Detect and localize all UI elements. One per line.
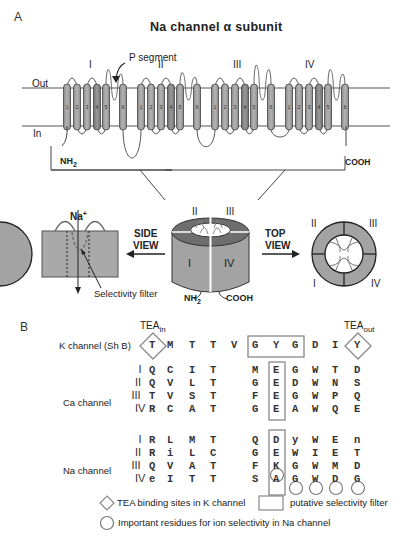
domain-label-i: I bbox=[89, 59, 92, 70]
ca-residue: T bbox=[149, 390, 155, 402]
na-residue: G bbox=[252, 447, 258, 459]
na-residue: T bbox=[210, 460, 216, 472]
channel-barrel bbox=[172, 217, 249, 299]
barrel-nh2-label: NH2 bbox=[184, 293, 201, 305]
k-residue: G bbox=[252, 339, 258, 351]
na-residue: E bbox=[273, 447, 279, 459]
side-view-block bbox=[42, 231, 118, 277]
k-residue: Y bbox=[273, 339, 279, 351]
ca-residue: Q bbox=[332, 403, 338, 415]
na-residue: W bbox=[312, 434, 318, 446]
cooh-label: COOH bbox=[345, 157, 371, 167]
k-residue: D bbox=[312, 339, 318, 351]
ca-residue: G bbox=[252, 377, 258, 389]
ca-residue: C bbox=[167, 364, 173, 376]
ca-channel-name: Ca channel bbox=[63, 397, 111, 408]
legend-circle-label: Important residues for ion selectivity i… bbox=[118, 517, 330, 528]
ca-residue: S bbox=[189, 390, 195, 402]
inter-domain-linker bbox=[123, 128, 141, 158]
ca-residue: P bbox=[332, 390, 338, 402]
na-residue: i bbox=[167, 447, 173, 459]
k-residue: T bbox=[149, 339, 155, 351]
ca-domain-numeral: III bbox=[132, 389, 141, 401]
k-residue: T bbox=[210, 339, 216, 351]
na-residue: G bbox=[354, 473, 360, 485]
ca-domain-numeral: IV bbox=[135, 402, 145, 414]
na-residue: D bbox=[273, 434, 279, 446]
na-ion-label: Na+ bbox=[70, 210, 87, 222]
na-residue: K bbox=[273, 460, 279, 472]
na-residue: F bbox=[252, 460, 258, 472]
na-residue: W bbox=[312, 473, 318, 485]
na-residue: V bbox=[167, 460, 173, 472]
na-residue: R bbox=[149, 434, 155, 446]
legend-circle-icon bbox=[101, 517, 114, 530]
top-view-domain-ii: II bbox=[311, 218, 317, 229]
bracket-connector-right bbox=[258, 170, 285, 200]
ca-residue: E bbox=[273, 390, 279, 402]
na-domain-numeral: I bbox=[139, 433, 142, 445]
side-view-loop-right bbox=[85, 222, 105, 232]
na-residue: T bbox=[189, 473, 195, 485]
na-residue: D bbox=[332, 473, 338, 485]
top-view-label-line1: TOP bbox=[265, 228, 285, 239]
side-view-label-line1: SIDE bbox=[134, 228, 157, 239]
legend-diamond-icon bbox=[100, 496, 114, 510]
ion-flow-arrowhead-icon bbox=[75, 287, 81, 294]
ca-domain-numeral: I bbox=[139, 363, 142, 375]
barrel-domain-iv: IV bbox=[224, 257, 234, 269]
ca-residue: V bbox=[167, 377, 173, 389]
in-label: In bbox=[33, 128, 41, 139]
legend-diamond-label: TEA binding sites in K channel bbox=[117, 497, 245, 508]
topology-diagram: 123456123456123456123456 bbox=[0, 0, 413, 310]
side-view-label-line2: VIEW bbox=[133, 240, 159, 251]
na-residue: Q bbox=[252, 434, 258, 446]
na-residue: L bbox=[189, 447, 195, 459]
ca-residue: F bbox=[252, 390, 258, 402]
na-domain-numeral: II bbox=[135, 446, 141, 458]
na-residue: I bbox=[312, 447, 318, 459]
na-residue: M bbox=[332, 460, 338, 472]
ca-residue: A bbox=[189, 403, 195, 415]
bracket-connector-left bbox=[140, 170, 165, 200]
ca-residue: W bbox=[312, 377, 318, 389]
selectivity-filter-label: Selectivity filter bbox=[94, 288, 157, 299]
k-channel-name: K channel (Sh B) bbox=[59, 340, 131, 351]
k-residue: Y bbox=[354, 339, 360, 351]
ca-residue: D bbox=[292, 377, 298, 389]
barrel-domain-ii: II bbox=[192, 206, 198, 217]
side-view-loop-left bbox=[55, 222, 75, 232]
na-residue: y bbox=[292, 434, 298, 446]
inter-domain-linker bbox=[197, 128, 215, 147]
domain-label-iii: III bbox=[233, 59, 241, 70]
na-residue: Q bbox=[149, 460, 155, 472]
ca-residue: Q bbox=[149, 364, 155, 376]
k-residue: T bbox=[189, 339, 195, 351]
na-residue: M bbox=[189, 434, 195, 446]
na-residue: I bbox=[167, 473, 173, 485]
top-view-domain-iii: III bbox=[369, 218, 377, 229]
ca-residue: E bbox=[273, 377, 279, 389]
ca-residue: G bbox=[252, 403, 258, 415]
top-view-label-line2: VIEW bbox=[265, 240, 291, 251]
na-residue: D bbox=[354, 460, 360, 472]
na-residue: e bbox=[149, 473, 155, 485]
na-residue: T bbox=[210, 434, 216, 446]
ca-residue: G bbox=[292, 390, 298, 402]
nh2-label: NH2 bbox=[60, 156, 77, 168]
k-residue: V bbox=[231, 339, 237, 351]
ca-residue: W bbox=[312, 390, 318, 402]
k-residue: M bbox=[167, 339, 173, 351]
ca-residue: T bbox=[210, 377, 216, 389]
ca-residue: C bbox=[167, 403, 173, 415]
na-residue: A bbox=[273, 473, 279, 485]
p-segment-label: P segment bbox=[129, 52, 177, 63]
na-residue: C bbox=[210, 447, 216, 459]
barrel-domain-i: I bbox=[188, 257, 191, 269]
ca-residue: M bbox=[252, 364, 258, 376]
legend-box-label: putative selectivity filter bbox=[290, 497, 388, 508]
top-view-domain-iv: IV bbox=[371, 278, 380, 289]
ca-residue: T bbox=[210, 403, 216, 415]
ca-residue: A bbox=[292, 403, 298, 415]
ca-residue: E bbox=[354, 403, 360, 415]
